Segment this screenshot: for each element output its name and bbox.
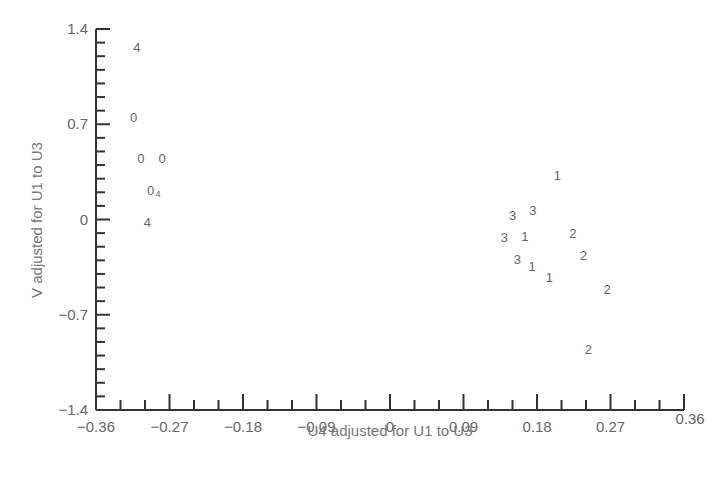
- x-tick-label: −0.36: [77, 418, 115, 435]
- data-point: 1: [521, 229, 528, 244]
- data-point: 1: [554, 168, 561, 183]
- data-point: 4: [133, 40, 140, 55]
- y-tick-label: 0: [80, 211, 88, 228]
- data-point: 0: [130, 110, 137, 125]
- x-tick-label: 0.18: [522, 418, 551, 435]
- x-tick-label: −0.27: [151, 418, 189, 435]
- data-point: 3: [509, 208, 516, 223]
- data-point: 1: [528, 259, 535, 274]
- y-axis-title: V adjusted for U1 to U3: [28, 142, 45, 298]
- x-tick-label: 0.36: [675, 410, 704, 427]
- y-tick-label: −1.4: [58, 401, 88, 418]
- x-axis-title: U4 adjusted for U1 to U3: [307, 422, 472, 439]
- data-point: 2: [580, 248, 587, 263]
- data-point: 3: [529, 203, 536, 218]
- data-point: 0: [147, 183, 154, 198]
- data-point: 1: [546, 270, 553, 285]
- x-tick-label: 0.27: [596, 418, 625, 435]
- y-axis-ticks: 1.40.70−0.7−1.4: [58, 20, 110, 418]
- axes: [96, 29, 684, 410]
- data-points: 4000044133312312122: [130, 40, 611, 357]
- x-tick-label: −0.18: [224, 418, 262, 435]
- data-point: 2: [569, 226, 576, 241]
- data-point: 0: [137, 151, 144, 166]
- data-point: 3: [501, 230, 508, 245]
- data-point: 0: [159, 151, 166, 166]
- y-tick-label: 1.4: [67, 20, 88, 37]
- data-point: 2: [585, 342, 592, 357]
- data-point: 2: [604, 282, 611, 297]
- scatter-chart: 1.40.70−0.7−1.4 −0.36−0.27−0.18−0.0900.0…: [0, 0, 725, 483]
- data-point: 4: [144, 215, 151, 230]
- y-tick-label: 0.7: [67, 115, 88, 132]
- y-tick-label: −0.7: [58, 306, 88, 323]
- data-point: 4: [156, 189, 161, 199]
- data-point: 3: [514, 252, 521, 267]
